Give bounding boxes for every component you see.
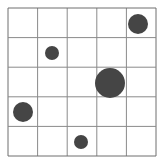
- grid-diagram: [0, 0, 158, 163]
- circle-marker: [13, 102, 33, 122]
- circle-marker: [74, 135, 88, 149]
- circle-marker: [45, 46, 59, 60]
- circle-marker: [128, 14, 148, 34]
- circles: [13, 14, 148, 149]
- circle-marker: [95, 68, 125, 98]
